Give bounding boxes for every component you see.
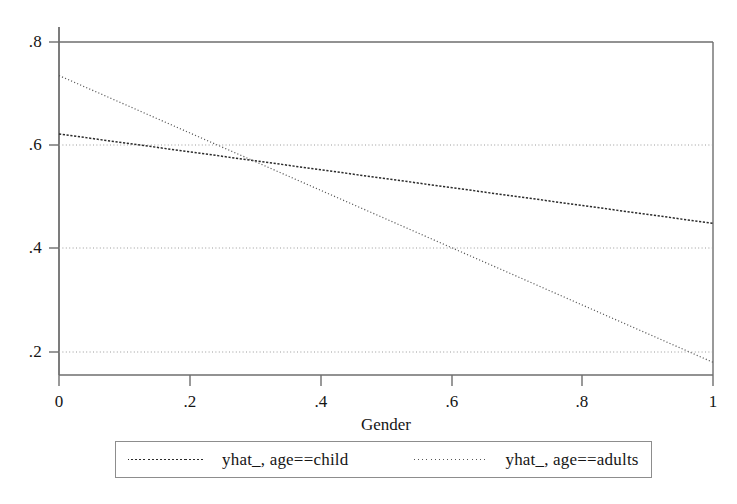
plot-frame — [59, 27, 713, 375]
y-tick-label-04: .4 — [8, 238, 42, 258]
x-tick-label-0: 0 — [55, 392, 64, 412]
x-tick-label-04: .4 — [314, 392, 327, 412]
x-tick-label-06: .6 — [445, 392, 458, 412]
legend-key-child-icon — [128, 458, 205, 461]
y-tick-label-06: .6 — [8, 135, 42, 155]
x-tick-label-02: .2 — [183, 392, 196, 412]
series-line-adults — [59, 76, 713, 363]
series-line-child — [59, 134, 713, 223]
x-tick-label-08: .8 — [575, 392, 588, 412]
gridlines — [59, 145, 713, 352]
legend-label-child: yhat_, age==child — [222, 450, 348, 470]
x-axis-title: Gender — [361, 415, 411, 435]
chart-figure: .8 .6 .4 .2 0 .2 .4 .6 .8 1 Gender yhat_… — [0, 0, 737, 504]
legend-key-adults-icon — [411, 458, 488, 461]
y-tick-label-02: .2 — [8, 342, 42, 362]
legend-label-adults: yhat_, age==adults — [505, 450, 638, 470]
x-tick-marks — [59, 375, 713, 386]
y-tick-marks — [49, 42, 59, 352]
x-tick-label-1: 1 — [709, 392, 718, 412]
series-lines — [59, 76, 713, 363]
y-tick-label-08: .8 — [8, 32, 42, 52]
legend-item-child: yhat_, age==child — [128, 450, 348, 470]
chart-legend: yhat_, age==child yhat_, age==adults — [115, 441, 652, 478]
legend-item-adults: yhat_, age==adults — [411, 450, 638, 470]
